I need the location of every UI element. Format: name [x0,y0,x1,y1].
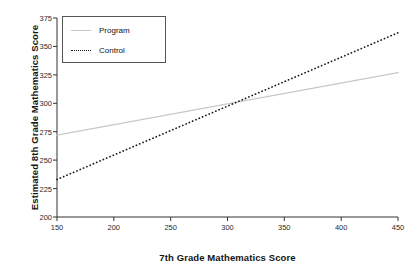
line-chart: Estimated 8th Grade Mathematics Score 7t… [0,0,412,276]
x-tick-marks [57,217,398,221]
solid-line-swatch [71,26,91,34]
legend-label-control: Control [99,46,125,55]
dotted-line-swatch [71,46,91,54]
legend-entry-control: Control [71,43,125,57]
legend-entry-program: Program [71,23,130,37]
legend: Program Control [62,16,166,63]
legend-label-program: Program [99,26,130,35]
series-line-program [57,73,398,136]
y-tick-marks [53,18,57,217]
